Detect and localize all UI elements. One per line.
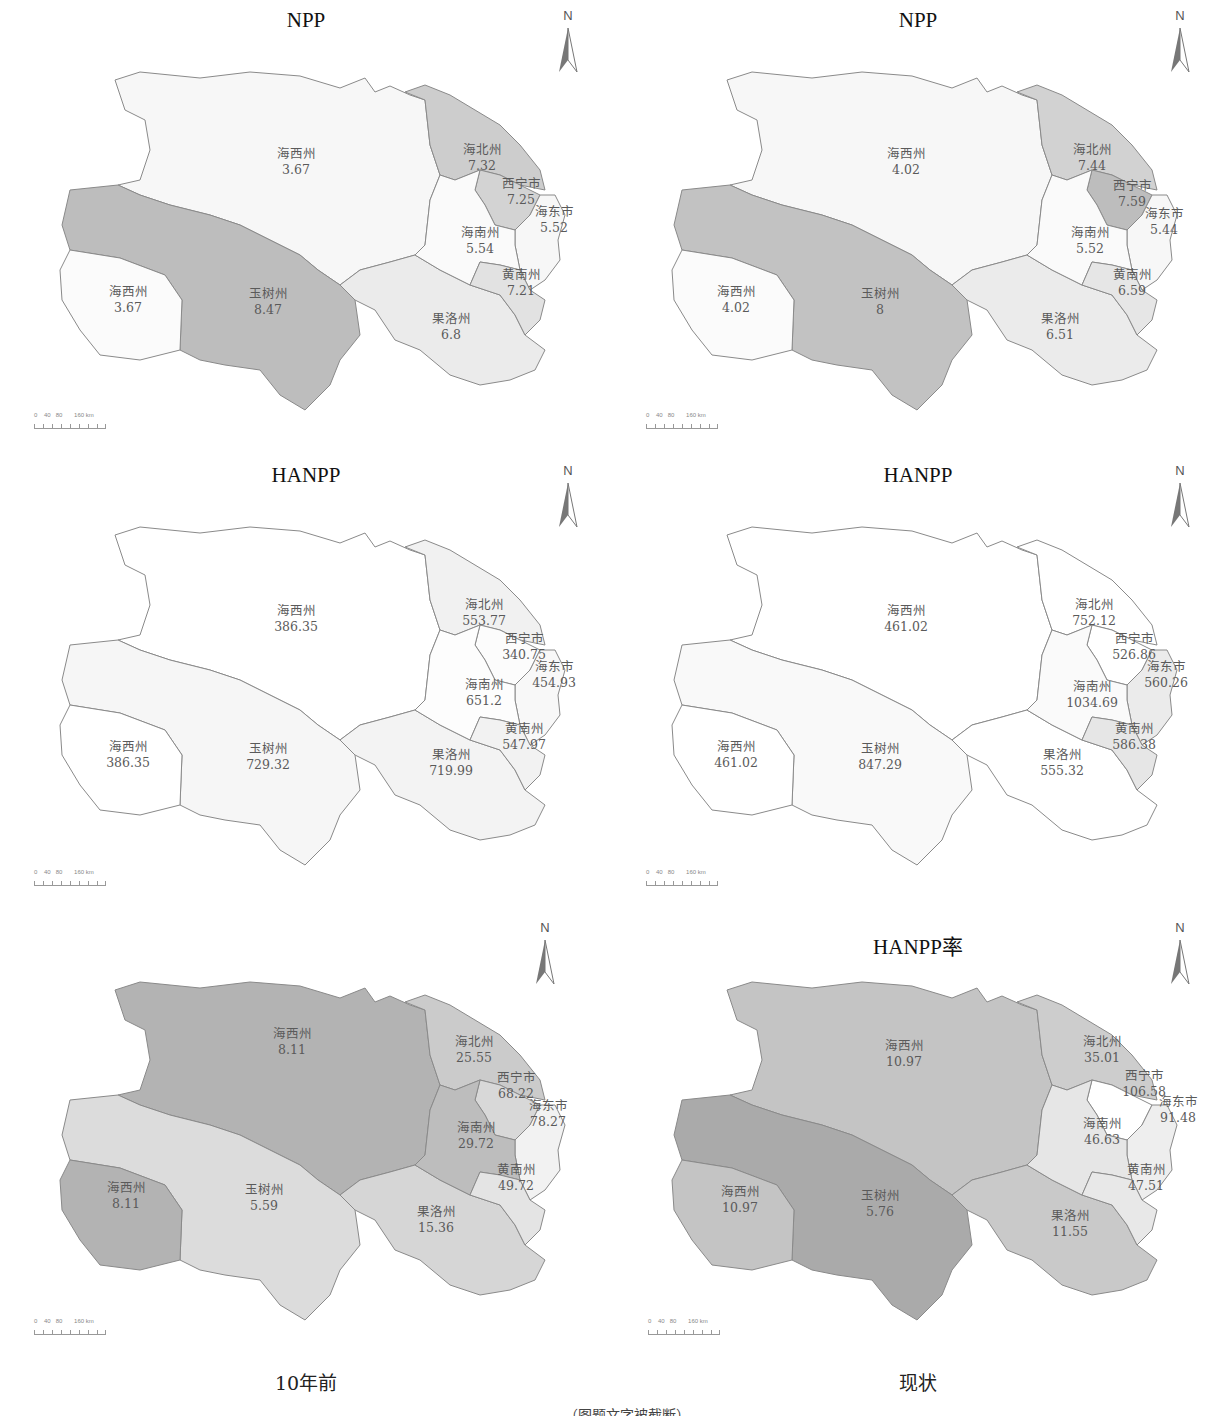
map: 海西州 10.97 海西州 10.97 玉树州 5.76 果洛州 11.55 海… [612,910,1224,1350]
column-caption-now: 现状 [612,1368,1224,1395]
label-haixi-west-name: 海西州 [717,739,756,754]
label-haixi-north-name: 海西州 [887,146,926,161]
label-huangnan-name: 黄南州 [1115,721,1154,736]
label-xining-name: 西宁市 [1115,631,1154,646]
scale-bar: 0 40 80 160 km [648,1318,720,1335]
label-hainan-name: 海南州 [457,1120,496,1135]
label-haixi-west-value: 4.02 [722,300,750,315]
label-huangnan-value: 7.21 [507,283,535,298]
label-haixi-north-value: 3.67 [282,162,310,177]
label-hainan-name: 海南州 [1083,1116,1122,1131]
label-xining-name: 西宁市 [502,176,541,191]
map-panel-hanpp-now: HANPP N 海西州 461.02 海西州 461.02 玉树州 847.29… [612,455,1224,895]
label-haixi-north-value: 10.97 [886,1054,922,1069]
label-xining-value: 7.59 [1118,194,1146,209]
label-haixi-west-name: 海西州 [717,284,756,299]
label-huangnan-value: 6.59 [1118,283,1146,298]
label-xining-value: 7.25 [507,192,535,207]
label-haibei-value: 553.77 [462,613,506,628]
label-hainan-value: 5.52 [1076,241,1104,256]
label-hainan-value: 46.63 [1084,1132,1120,1147]
label-haixi-west-name: 海西州 [107,1180,146,1195]
label-haibei-value: 7.44 [1078,158,1106,173]
label-yushu-name: 玉树州 [245,1182,284,1197]
label-yushu-name: 玉树州 [861,741,900,756]
label-hainan-value: 29.72 [458,1136,494,1151]
label-guoluo-value: 6.51 [1046,327,1074,342]
label-huangnan-value: 49.72 [498,1178,534,1193]
label-hainan-name: 海南州 [461,225,500,240]
label-guoluo-name: 果洛州 [417,1204,456,1219]
map: 海西州 461.02 海西州 461.02 玉树州 847.29 果洛州 555… [612,455,1224,895]
map: 海西州 386.35 海西州 386.35 玉树州 729.32 果洛州 719… [0,455,612,895]
label-yushu-value: 5.76 [866,1204,894,1219]
label-haibei-name: 海北州 [465,597,504,612]
label-haidong-value: 5.52 [540,220,568,235]
label-yushu-name: 玉树州 [861,286,900,301]
label-haidong-name: 海东市 [1145,206,1184,221]
label-haibei-name: 海北州 [1073,142,1112,157]
label-hainan-name: 海南州 [1071,225,1110,240]
map-panel-npp-now: NPP N 海西州 4.02 海西州 4.02 玉树州 8 果洛州 6.51 海… [612,0,1224,440]
map: 海西州 3.67 海西州 3.67 玉树州 8.47 果洛州 6.8 海北州 7… [0,0,612,440]
label-haidong-value: 91.48 [1160,1110,1196,1125]
map: 海西州 4.02 海西州 4.02 玉树州 8 果洛州 6.51 海北州 7.4… [612,0,1224,440]
label-haidong-name: 海东市 [1159,1094,1198,1109]
label-haidong-name: 海东市 [535,659,574,674]
label-hainan-value: 5.54 [466,241,494,256]
label-yushu-name: 玉树州 [861,1188,900,1203]
label-guoluo-name: 果洛州 [432,747,471,762]
label-haixi-north-name: 海西州 [887,603,926,618]
label-haixi-west-name: 海西州 [109,284,148,299]
label-haixi-west-value: 386.35 [106,755,150,770]
scale-bar: 0 40 80 160 km [34,869,106,886]
label-huangnan-name: 黄南州 [502,267,541,282]
map-panel-rate-10yr: N 海西州 8.11 海西州 8.11 玉树州 5.59 果洛州 15.36 海… [0,910,612,1350]
label-guoluo-name: 果洛州 [1043,747,1082,762]
scale-bar: 0 40 80 160 km [34,412,106,429]
label-haixi-north-value: 4.02 [892,162,920,177]
label-guoluo-value: 719.99 [429,763,473,778]
label-haixi-north-name: 海西州 [885,1038,924,1053]
label-guoluo-value: 11.55 [1052,1224,1088,1239]
label-haixi-west-value: 10.97 [722,1200,758,1215]
label-haidong-value: 454.93 [532,675,576,690]
map: 海西州 8.11 海西州 8.11 玉树州 5.59 果洛州 15.36 海北州… [0,910,612,1350]
label-haixi-north-name: 海西州 [277,146,316,161]
label-haidong-name: 海东市 [535,204,574,219]
label-haixi-north-name: 海西州 [273,1026,312,1041]
label-yushu-value: 8 [876,302,884,317]
label-xining-name: 西宁市 [497,1070,536,1085]
label-xining-name: 西宁市 [1113,178,1152,193]
label-haidong-value: 560.26 [1144,675,1188,690]
label-hainan-value: 651.2 [466,693,502,708]
label-guoluo-value: 15.36 [418,1220,454,1235]
figure-caption-truncated: ……（图题文字被截断） [0,1404,1225,1416]
label-huangnan-value: 47.51 [1128,1178,1164,1193]
label-haibei-name: 海北州 [455,1034,494,1049]
map-panel-npp-10yr: NPP N 海西州 3.67 海西州 3.67 玉树州 8.47 果洛州 6.8… [0,0,612,440]
scale-bar: 0 40 80 160 km [646,869,718,886]
label-haidong-value: 5.44 [1150,222,1178,237]
label-haibei-value: 25.55 [456,1050,492,1065]
label-haibei-name: 海北州 [1075,597,1114,612]
label-xining-name: 西宁市 [505,631,544,646]
map-panel-hanpp-10yr: HANPP N 海西州 386.35 海西州 386.35 玉树州 729.32… [0,455,612,895]
label-haibei-value: 35.01 [1084,1050,1120,1065]
label-huangnan-name: 黄南州 [1127,1162,1166,1177]
label-huangnan-name: 黄南州 [497,1162,536,1177]
label-haixi-west-name: 海西州 [721,1184,760,1199]
label-huangnan-value: 586.38 [1112,737,1156,752]
column-caption-10yr: 10年前 [0,1368,612,1395]
label-haidong-name: 海东市 [529,1098,568,1113]
label-hainan-name: 海南州 [465,677,504,692]
label-hainan-name: 海南州 [1073,679,1112,694]
scale-bar: 0 40 80 160 km [34,1318,106,1335]
map-panel-rate-now: HANPP率 N 海西州 10.97 海西州 10.97 玉树州 5.76 果洛… [612,910,1224,1350]
label-haibei-value: 7.32 [468,158,496,173]
label-haidong-value: 78.27 [530,1114,566,1129]
label-guoluo-name: 果洛州 [1041,311,1080,326]
label-hainan-value: 1034.69 [1066,695,1118,710]
label-guoluo-value: 6.8 [441,327,461,342]
label-yushu-value: 847.29 [858,757,902,772]
